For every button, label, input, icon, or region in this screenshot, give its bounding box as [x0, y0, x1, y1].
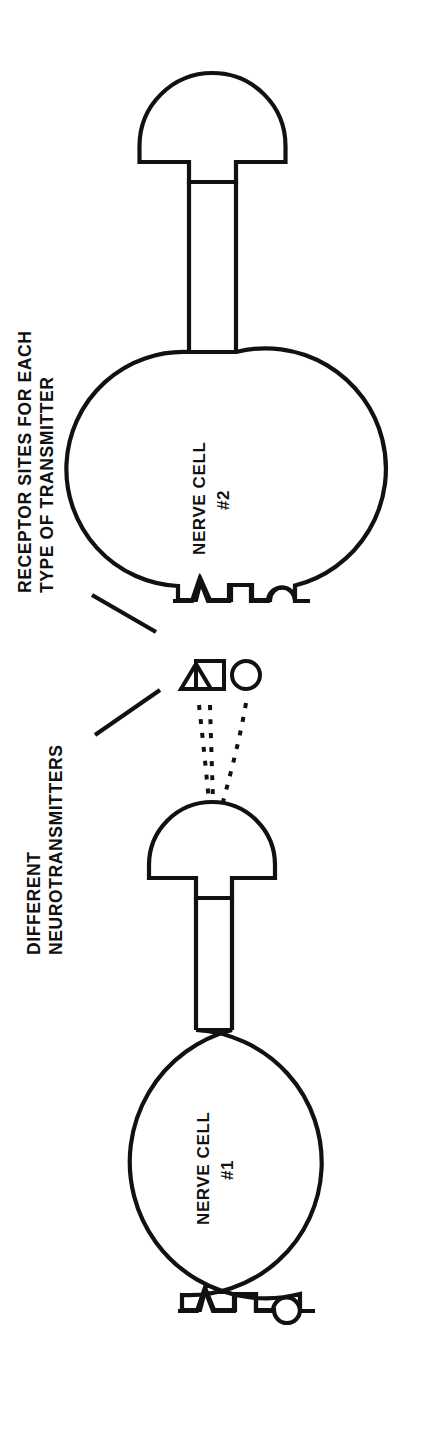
cell1-label-line2: #1: [218, 1160, 237, 1180]
cell2-label-line1: NERVE CELL: [190, 442, 209, 555]
receptor-label-line1: RECEPTOR SITES FOR EACH: [15, 331, 35, 593]
receptor-label-line2: TYPE OF TRANSMITTER: [37, 376, 57, 593]
synapse-diagram: RECEPTOR SITES FOR EACH TYPE OF TRANSMIT…: [0, 0, 426, 1439]
cell1-label-line1: NERVE CELL: [194, 1112, 213, 1225]
cell2-label-line2: #2: [214, 490, 233, 510]
transmitter-label-line2: NEUROTRANSMITTERS: [46, 745, 66, 955]
figure-canvas: RECEPTOR SITES FOR EACH TYPE OF TRANSMIT…: [0, 0, 426, 1439]
transmitter-label-line1: DIFFERENT: [24, 851, 44, 955]
figure-background: [0, 0, 426, 1439]
